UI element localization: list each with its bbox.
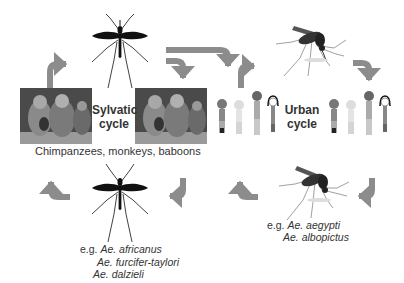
sylvatic-mosquito-top	[80, 0, 160, 90]
sylvatic-label-line2: cycle	[92, 117, 136, 131]
arrow-urban-down-left	[359, 178, 372, 196]
primates-photo-left	[20, 88, 92, 144]
arrow-sylvatic-right-down	[166, 61, 183, 78]
urban-label-line1: Urban	[282, 103, 322, 117]
urban-cycle-label: Urban cycle	[282, 103, 322, 131]
sylvatic-cycle-label: Sylvatic cycle	[92, 103, 136, 131]
hosts-caption: Chimpanzees, monkeys, baboons	[35, 145, 201, 157]
vector-name: Ae. aegypti	[287, 219, 340, 231]
arrow-urban-left-up	[240, 182, 258, 197]
urban-vector-1: e.g. Ae. aegypti	[267, 219, 340, 231]
eg-prefix: e.g.	[267, 219, 285, 231]
urban-mosquito-top	[262, 10, 352, 85]
vector-name: Ae. africanus	[100, 243, 161, 255]
arrow-sylvatic-left-up	[51, 182, 70, 197]
sylvatic-vector-2: Ae. furcifer-taylori	[97, 256, 179, 268]
arrow-sylvatic-up-right	[50, 64, 66, 88]
arrow-urban-up-right	[241, 66, 254, 88]
sylvatic-label-line1: Sylvatic	[92, 103, 136, 117]
vector-name: Ae. furcifer-taylori	[97, 256, 179, 268]
human-figures-left	[214, 88, 280, 144]
vector-name: Ae. albopictus	[283, 231, 349, 243]
arrow-urban-right-down	[353, 63, 369, 80]
sylvatic-mosquito-bottom	[80, 158, 160, 248]
sylvatic-vector-1: e.g. Ae. africanus	[80, 243, 162, 255]
urban-label-line2: cycle	[282, 117, 322, 131]
arrow-sylvatic-down-left	[170, 178, 183, 196]
urban-vector-2: Ae. albopictus	[283, 231, 349, 243]
primates-photo-right	[135, 88, 207, 144]
eg-prefix: e.g.	[80, 243, 98, 255]
sylvatic-vector-3: Ae. dalzieli	[93, 268, 144, 280]
human-figures-right	[326, 88, 392, 144]
vector-name: Ae. dalzieli	[93, 268, 144, 280]
